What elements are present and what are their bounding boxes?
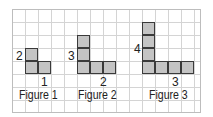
square <box>168 61 181 74</box>
square <box>90 61 103 74</box>
figure-caption: Figure 3 <box>149 89 188 101</box>
height-label: 4 <box>134 43 141 55</box>
square <box>142 22 155 35</box>
square <box>77 61 90 74</box>
square <box>142 61 155 74</box>
width-label: 3 <box>172 76 179 88</box>
square <box>181 61 194 74</box>
width-label: 2 <box>100 76 107 88</box>
figure-caption: Figure 2 <box>78 89 117 101</box>
square <box>103 61 116 74</box>
square <box>142 35 155 48</box>
width-label: 1 <box>41 76 48 88</box>
figure-pattern-diagram: 2 1 Figure 1 3 2 Figure 2 4 3 Figure 3 <box>0 0 213 117</box>
square <box>142 48 155 61</box>
square <box>77 48 90 61</box>
height-label: 2 <box>16 50 23 62</box>
figure-caption: Figure 1 <box>19 89 58 101</box>
square <box>25 48 38 61</box>
square <box>25 61 38 74</box>
square <box>77 35 90 48</box>
square <box>155 61 168 74</box>
height-label: 3 <box>68 50 75 62</box>
square <box>38 61 51 74</box>
